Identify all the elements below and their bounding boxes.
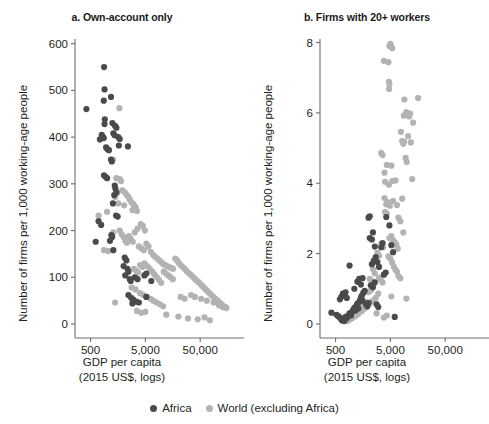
data-point xyxy=(101,98,107,104)
data-point xyxy=(204,298,210,304)
data-point xyxy=(394,202,400,208)
data-point xyxy=(112,299,118,305)
data-point xyxy=(97,136,103,142)
data-point xyxy=(145,243,151,249)
data-point xyxy=(372,243,378,249)
data-point xyxy=(170,276,176,282)
data-point xyxy=(134,276,140,282)
svg-text:500: 500 xyxy=(81,344,100,356)
data-point xyxy=(362,288,368,294)
data-point xyxy=(158,280,164,286)
legend-item-world: World (excluding Africa) xyxy=(206,402,339,414)
data-point xyxy=(116,105,122,111)
data-point xyxy=(116,142,122,148)
data-point xyxy=(401,96,407,102)
data-point xyxy=(403,296,409,302)
svg-text:50,000: 50,000 xyxy=(428,344,463,356)
panels-container: a. Own-account only Number of firms per … xyxy=(0,0,489,392)
data-point xyxy=(406,113,412,119)
svg-text:100: 100 xyxy=(49,271,68,283)
data-point xyxy=(386,222,392,228)
data-point xyxy=(404,159,410,165)
data-point xyxy=(93,239,99,245)
data-point xyxy=(386,86,392,92)
data-point xyxy=(211,299,217,305)
data-point xyxy=(388,293,394,299)
svg-text:0: 0 xyxy=(307,318,313,330)
data-point xyxy=(370,229,376,235)
data-point xyxy=(397,275,403,281)
data-point xyxy=(346,262,352,268)
data-point xyxy=(415,95,421,101)
data-point xyxy=(129,300,135,306)
data-point xyxy=(201,314,207,320)
svg-text:500: 500 xyxy=(326,344,345,356)
data-point xyxy=(111,192,117,198)
svg-text:300: 300 xyxy=(49,178,68,190)
data-point xyxy=(185,315,191,321)
data-point xyxy=(121,202,127,208)
data-point xyxy=(367,213,373,219)
data-point xyxy=(95,218,101,224)
svg-text:600: 600 xyxy=(49,38,68,50)
panel-a-plot-area: 01002003004005006005005,00050,000 xyxy=(0,0,244,392)
data-point xyxy=(369,236,375,242)
data-point xyxy=(115,213,121,219)
data-point xyxy=(355,305,361,311)
data-point xyxy=(104,175,110,181)
data-point xyxy=(383,269,389,275)
data-point xyxy=(136,299,142,305)
svg-text:0: 0 xyxy=(62,318,68,330)
legend-dot-africa xyxy=(150,405,157,412)
chart-legend: Africa World (excluding Africa) xyxy=(0,392,489,424)
svg-text:6: 6 xyxy=(307,107,313,119)
data-point xyxy=(110,200,116,206)
data-point xyxy=(83,106,89,112)
series-africa xyxy=(83,64,154,307)
data-point xyxy=(344,295,350,301)
data-point xyxy=(379,279,385,285)
panel-own-account-only: a. Own-account only Number of firms per … xyxy=(0,0,244,392)
data-point xyxy=(148,278,154,284)
legend-label-world: World (excluding Africa) xyxy=(218,402,339,414)
svg-text:500: 500 xyxy=(49,84,68,96)
data-point xyxy=(198,296,204,302)
data-point xyxy=(195,316,201,322)
data-point xyxy=(390,249,396,255)
legend-label-africa: Africa xyxy=(162,402,191,414)
data-point xyxy=(401,139,407,145)
data-point xyxy=(130,239,136,245)
data-point xyxy=(408,139,414,145)
data-point xyxy=(113,125,119,131)
data-point xyxy=(175,313,181,319)
data-point xyxy=(373,310,379,316)
data-point xyxy=(107,238,113,244)
data-point xyxy=(123,257,129,263)
data-point xyxy=(108,94,114,100)
data-point xyxy=(110,247,116,253)
data-point xyxy=(359,275,365,281)
data-point xyxy=(101,64,107,70)
svg-text:2: 2 xyxy=(307,248,313,260)
data-point xyxy=(400,229,406,235)
data-point xyxy=(143,294,149,300)
data-point xyxy=(372,279,378,285)
data-point xyxy=(142,309,148,315)
data-point xyxy=(143,270,149,276)
svg-text:50,000: 50,000 xyxy=(183,344,218,356)
data-point xyxy=(381,315,387,321)
data-point xyxy=(106,147,112,153)
data-point xyxy=(182,296,188,302)
data-point xyxy=(405,133,411,139)
data-point xyxy=(379,240,385,246)
svg-text:4: 4 xyxy=(307,177,314,189)
data-point xyxy=(397,218,403,224)
data-point xyxy=(207,317,213,323)
data-point xyxy=(375,304,381,310)
data-point xyxy=(388,163,394,169)
data-point xyxy=(410,120,416,126)
data-point xyxy=(101,121,107,127)
data-point xyxy=(365,300,371,306)
data-point xyxy=(398,129,404,135)
data-point xyxy=(134,208,140,214)
